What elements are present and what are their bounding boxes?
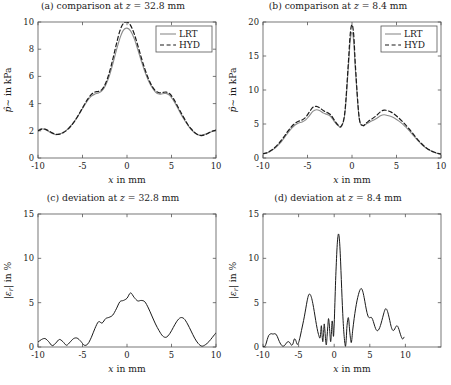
x-tick-label: 5 bbox=[367, 350, 372, 360]
x-tick-label: 5 bbox=[169, 161, 174, 171]
series-deviation bbox=[38, 293, 216, 346]
y-tick-label: 5 bbox=[29, 298, 34, 308]
y-tick-label: 0 bbox=[29, 153, 34, 163]
legend-label-lrt: LRT bbox=[404, 29, 423, 39]
y-axis-label: p̂∼ in kPa bbox=[2, 67, 13, 113]
plot-frame bbox=[263, 214, 441, 347]
x-tick-label: 10 bbox=[400, 350, 411, 360]
legend-label-hyd: HYD bbox=[179, 40, 200, 50]
legend-label-lrt: LRT bbox=[179, 29, 198, 39]
x-tick-label: -5 bbox=[78, 161, 86, 171]
x-tick-label: 0 bbox=[332, 350, 337, 360]
panel-c-plot: -10-50510051015x in mm|εr| in % bbox=[0, 192, 226, 385]
x-tick-label: 5 bbox=[394, 161, 399, 171]
x-tick-label: -5 bbox=[295, 350, 303, 360]
y-tick-label: 0 bbox=[254, 342, 259, 352]
y-axis-label: |εr| in % bbox=[227, 261, 240, 299]
y-tick-label: 20 bbox=[248, 17, 259, 27]
x-axis-label: x in mm bbox=[108, 363, 146, 374]
curves-group bbox=[263, 234, 404, 347]
x-tick-label: 0 bbox=[124, 161, 129, 171]
y-tick-label: 10 bbox=[23, 253, 34, 263]
y-tick-label: 0 bbox=[254, 153, 259, 163]
y-tick-label: 6 bbox=[29, 71, 34, 81]
y-tick-label: 5 bbox=[254, 298, 259, 308]
y-tick-label: 10 bbox=[248, 253, 259, 263]
panel-c: (c) deviation at z = 32.8 mm-10-50510051… bbox=[0, 192, 226, 385]
y-tick-label: 8 bbox=[29, 44, 34, 54]
x-tick-label: 10 bbox=[211, 350, 222, 360]
x-axis-label: x in mm bbox=[333, 363, 371, 374]
y-tick-label: 5 bbox=[254, 119, 259, 129]
y-axis-label: |εr| in % bbox=[2, 261, 15, 299]
y-tick-label: 4 bbox=[29, 99, 34, 109]
y-tick-label: 15 bbox=[23, 209, 34, 219]
x-tick-label: 0 bbox=[349, 161, 354, 171]
panel-d: (d) deviation at z = 8.4 mm-10-505100510… bbox=[225, 192, 451, 385]
panel-a: (a) comparison at z = 32.8 mm-10-5051002… bbox=[0, 0, 226, 196]
y-tick-label: 15 bbox=[248, 209, 259, 219]
y-tick-label: 15 bbox=[248, 51, 259, 61]
panel-b-plot: -10-5051005101520x in mmp̂∼ in kPaLRTHYD bbox=[225, 0, 451, 196]
x-tick-label: 5 bbox=[169, 350, 174, 360]
panel-d-plot: -10-50510051015x in mm|εr| in % bbox=[225, 192, 451, 385]
legend-label-hyd: HYD bbox=[404, 40, 425, 50]
panel-a-plot: -10-505100246810x in mmp̂∼ in kPaLRTHYD bbox=[0, 0, 226, 196]
x-axis-label: x in mm bbox=[108, 174, 146, 185]
panel-b: (b) comparison at z = 8.4 mm-10-50510051… bbox=[225, 0, 451, 196]
y-tick-label: 2 bbox=[29, 126, 34, 136]
x-tick-label: -5 bbox=[303, 161, 311, 171]
curves-group bbox=[38, 293, 216, 346]
figure-container: (a) comparison at z = 32.8 mm-10-5051002… bbox=[0, 0, 451, 385]
x-tick-label: 0 bbox=[124, 350, 129, 360]
y-axis-label: p̂∼ in kPa bbox=[227, 67, 238, 113]
y-tick-label: 10 bbox=[23, 17, 34, 27]
x-tick-label: 10 bbox=[211, 161, 222, 171]
y-tick-label: 10 bbox=[248, 85, 259, 95]
series-deviation bbox=[263, 234, 404, 347]
x-tick-label: -5 bbox=[78, 350, 86, 360]
x-tick-label: 10 bbox=[436, 161, 447, 171]
y-tick-label: 0 bbox=[29, 342, 34, 352]
x-axis-label: x in mm bbox=[333, 174, 371, 185]
